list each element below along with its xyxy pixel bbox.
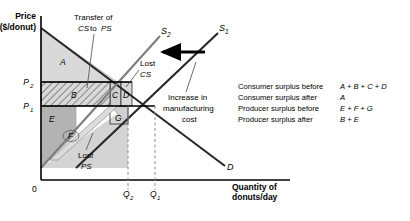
increase-cost-line2: manufacturing — [163, 104, 214, 113]
region-E-letter: E — [49, 114, 55, 124]
curve-label-s1-sub: 1 — [225, 28, 229, 35]
lost-ps-annotation-line1: Lost — [78, 151, 94, 160]
y-axis-title-line2: ($/donut) — [0, 22, 36, 32]
price-tick-p1: P 1 — [23, 101, 33, 113]
transfer-annotation-line2: CS to PS — [78, 24, 112, 33]
x-axis-title-line2: donuts/day — [232, 192, 278, 202]
lost-ps-annotation-line2: PS — [81, 162, 92, 171]
legend-row-2-label: Producer surplus before — [238, 104, 319, 113]
price-tick-p2-letter: P — [23, 77, 29, 87]
transfer-annotation-line1: Transfer of — [74, 13, 113, 22]
origin-label: 0 — [32, 184, 37, 194]
legend-row-1-value: A — [339, 93, 345, 102]
legend-row-2-value: E + F + G — [340, 104, 373, 113]
region-D-letter: D — [123, 90, 129, 100]
transfer-ps-text: PS — [101, 24, 112, 33]
transfer-to-text: to — [90, 24, 97, 33]
quantity-tick-q2-letter: Q — [123, 189, 130, 199]
legend-row-3-label: Producer surplus after — [238, 115, 313, 124]
supply-demand-welfare-figure: Price ($/donut) Quantity of donuts/day 0… — [0, 0, 410, 221]
legend: Consumer surplus before A + B + C + D Co… — [238, 82, 387, 124]
lost-cs-annotation-line2: CS — [140, 70, 152, 79]
quantity-tick-q1: Q 1 — [150, 189, 160, 201]
increase-cost-line1: Increase in — [168, 93, 207, 102]
increase-cost-line3: cost — [182, 115, 197, 124]
quantity-tick-q1-sub: 1 — [157, 195, 160, 201]
curve-label-s1: S 1 — [219, 23, 229, 35]
price-tick-p2-sub: 2 — [29, 83, 34, 89]
y-axis-title-line1: Price — [15, 11, 36, 21]
quantity-tick-q2-sub: 2 — [129, 195, 134, 201]
lost-cs-annotation-line1: Lost — [140, 59, 156, 68]
increase-cost-callout-line — [186, 62, 196, 92]
price-tick-p1-letter: P — [23, 101, 29, 111]
region-C-letter: C — [112, 90, 119, 100]
region-G-letter: G — [115, 113, 122, 123]
legend-row-0-value: A + B + C + D — [339, 82, 387, 91]
x-axis-title-line1: Quantity of — [232, 182, 277, 192]
price-tick-p2: P 2 — [23, 77, 34, 89]
price-tick-p1-sub: 1 — [30, 107, 33, 113]
region-A-letter: A — [59, 57, 66, 67]
curve-label-s2-sub: 2 — [166, 31, 171, 38]
curve-label-s2: S 2 — [161, 26, 171, 38]
quantity-tick-q1-letter: Q — [150, 189, 157, 199]
transfer-cs-text: CS — [78, 24, 90, 33]
legend-row-0-label: Consumer surplus before — [238, 82, 323, 91]
legend-row-1-label: Consumer surplus after — [238, 93, 317, 102]
region-B-letter: B — [71, 90, 77, 100]
diagram-canvas: Price ($/donut) Quantity of donuts/day 0… — [0, 0, 410, 221]
curve-label-d: D — [227, 162, 234, 172]
quantity-tick-q2: Q 2 — [123, 189, 134, 201]
legend-row-3-value: B + E — [340, 115, 360, 124]
region-F-letter: F — [68, 131, 74, 141]
